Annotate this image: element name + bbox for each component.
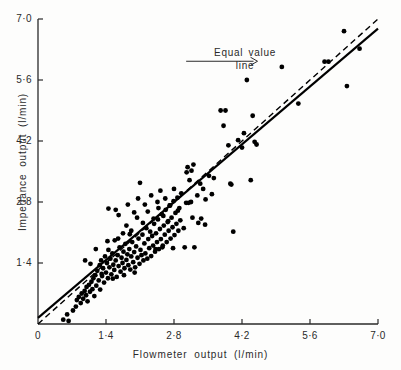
- data-point: [96, 278, 101, 283]
- x-axis-title: Flowmeter output (l/min): [0, 349, 401, 360]
- data-point: [254, 142, 259, 147]
- x-tick-label: 1·4: [86, 330, 126, 341]
- y-tick-label: 1·4: [0, 257, 32, 268]
- data-point: [189, 168, 194, 173]
- data-point: [199, 216, 204, 221]
- data-point: [153, 247, 158, 252]
- data-point: [116, 264, 121, 269]
- data-point: [106, 248, 111, 253]
- data-point: [95, 268, 100, 273]
- data-point: [127, 247, 132, 252]
- data-point: [93, 273, 98, 278]
- data-point: [66, 319, 71, 324]
- data-point: [221, 123, 226, 128]
- data-point: [231, 229, 236, 234]
- data-point: [135, 215, 140, 220]
- data-point: [138, 180, 143, 185]
- data-point: [84, 293, 89, 298]
- data-point: [178, 218, 183, 223]
- data-point: [201, 187, 206, 192]
- data-point: [152, 221, 157, 226]
- data-point: [124, 223, 129, 228]
- data-point: [182, 245, 187, 250]
- data-point: [151, 216, 156, 221]
- data-point: [133, 265, 138, 270]
- data-point: [92, 294, 97, 299]
- data-point: [248, 178, 253, 183]
- data-point: [160, 245, 165, 250]
- data-point: [240, 145, 245, 150]
- data-point: [143, 251, 148, 256]
- data-point: [190, 215, 195, 220]
- data-point: [189, 200, 194, 205]
- data-point: [168, 203, 173, 208]
- data-point: [211, 176, 216, 181]
- data-point: [110, 276, 115, 281]
- data-point: [113, 258, 118, 263]
- data-point: [192, 245, 197, 250]
- data-point: [131, 260, 136, 265]
- data-point: [119, 255, 124, 260]
- data-point: [112, 268, 117, 273]
- data-point: [163, 196, 168, 201]
- data-point: [129, 228, 134, 233]
- data-point: [218, 108, 223, 113]
- data-point: [203, 197, 208, 202]
- data-point: [149, 193, 154, 198]
- data-point: [123, 241, 128, 246]
- data-point: [163, 207, 168, 212]
- data-point: [108, 256, 113, 261]
- data-point: [111, 262, 116, 267]
- data-point: [181, 226, 186, 231]
- data-point: [161, 223, 166, 228]
- y-tick-label: 5·6: [0, 74, 32, 85]
- data-point: [226, 143, 231, 148]
- data-point: [132, 210, 137, 215]
- x-tick-label: 7·0: [358, 330, 398, 341]
- data-point: [105, 261, 110, 266]
- data-point: [146, 237, 151, 242]
- data-point: [132, 270, 137, 275]
- data-point: [104, 270, 109, 275]
- data-point: [130, 240, 135, 245]
- data-point: [184, 170, 189, 175]
- data-point: [166, 219, 171, 224]
- x-tick-label: 4·2: [222, 330, 262, 341]
- data-point: [179, 191, 184, 196]
- data-point: [357, 46, 362, 51]
- data-point: [128, 267, 133, 272]
- y-axis-title-container: Impedance output (l/min): [17, 52, 31, 272]
- data-point: [90, 287, 95, 292]
- data-point: [102, 280, 107, 285]
- data-point: [198, 181, 203, 186]
- data-point: [229, 182, 234, 187]
- data-point: [88, 261, 93, 266]
- data-point: [124, 258, 129, 263]
- data-point: [132, 250, 137, 255]
- data-point: [156, 206, 161, 211]
- data-point: [65, 312, 70, 317]
- data-point: [120, 261, 125, 266]
- data-point: [61, 317, 66, 322]
- data-point: [106, 276, 111, 281]
- data-point: [99, 258, 104, 263]
- data-point: [116, 213, 121, 218]
- data-point: [78, 301, 83, 306]
- data-point: [71, 308, 76, 313]
- data-point: [170, 225, 175, 230]
- data-point: [98, 287, 103, 292]
- data-point: [175, 195, 180, 200]
- data-point: [101, 266, 106, 271]
- data-point: [142, 202, 147, 207]
- data-point: [342, 29, 347, 34]
- data-point: [106, 206, 111, 211]
- data-point: [168, 236, 173, 241]
- data-point: [118, 269, 123, 274]
- data-point: [149, 254, 154, 259]
- x-tick-label: 5·6: [290, 330, 330, 341]
- data-point: [161, 214, 166, 219]
- data-point: [73, 304, 78, 309]
- equal-value-line-annotation: Equal value line: [193, 46, 297, 72]
- data-point: [121, 231, 126, 236]
- data-point: [196, 221, 201, 226]
